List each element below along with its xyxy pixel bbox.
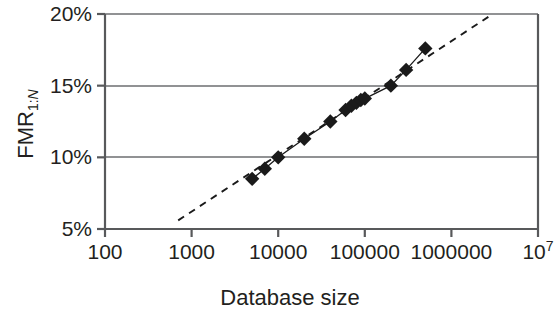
x-tick-label-1000000: 1000000: [411, 240, 493, 263]
y-tick-label-10: 10%: [50, 145, 92, 168]
y-tick-label-15: 15%: [50, 74, 92, 97]
chart-figure: 20%15%10%5% 1001000100001000001000000107…: [0, 0, 559, 320]
x-tick-label-10000: 10000: [249, 240, 307, 263]
plot-area-background: [105, 14, 538, 229]
x-axis-title: Database size: [220, 285, 359, 310]
y-tick-label-5: 5%: [62, 217, 92, 240]
x-tick-label-100000: 100000: [330, 240, 400, 263]
y-axis-title-sub: 1:: [25, 99, 41, 111]
y-axis-title-base: FMR: [13, 111, 38, 159]
y-tick-label-20: 20%: [50, 2, 92, 25]
y-axis-title-sub-italic: N: [25, 88, 41, 99]
x-tick-label-100: 100: [87, 240, 122, 263]
x-tick-label-1000: 1000: [168, 240, 215, 263]
